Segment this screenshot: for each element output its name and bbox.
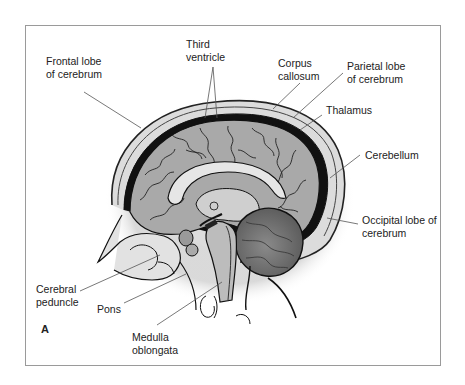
label-thalamus: Thalamus	[326, 104, 372, 117]
label-line: Frontal lobe	[46, 55, 102, 68]
label-parietal-lobe: Parietal lobe of cerebrum	[347, 60, 405, 86]
label-line: callosum	[278, 70, 319, 83]
label-corpus-callosum: Corpus callosum	[278, 57, 319, 83]
panel-letter: A	[41, 323, 49, 335]
label-line: of cerebrum	[46, 68, 102, 81]
label-cerebellum: Cerebellum	[365, 149, 419, 162]
label-medulla-oblongata: Medulla oblongata	[132, 331, 178, 357]
label-line: Parietal lobe	[347, 60, 405, 73]
label-occipital-lobe: Occipital lobe of cerebrum	[362, 214, 437, 240]
label-third-ventricle: Third ventricle	[186, 38, 225, 64]
label-line: Cerebellum	[365, 149, 419, 162]
label-line: cerebrum	[362, 227, 437, 240]
label-cerebral-peduncle: Cerebral peduncle	[36, 283, 79, 309]
label-pons: Pons	[97, 303, 121, 316]
label-line: peduncle	[36, 296, 79, 309]
label-frontal-lobe: Frontal lobe of cerebrum	[46, 55, 102, 81]
cerebellum	[236, 208, 303, 276]
label-line: Cerebral	[36, 283, 79, 296]
label-line: Thalamus	[326, 104, 372, 117]
label-line: Medulla	[132, 331, 178, 344]
label-line: Pons	[97, 303, 121, 316]
label-line: Third	[186, 38, 225, 51]
label-line: Corpus	[278, 57, 319, 70]
label-line: of cerebrum	[347, 73, 405, 86]
label-line: ventricle	[186, 51, 225, 64]
label-line: oblongata	[132, 344, 178, 357]
label-line: Occipital lobe of	[362, 214, 437, 227]
